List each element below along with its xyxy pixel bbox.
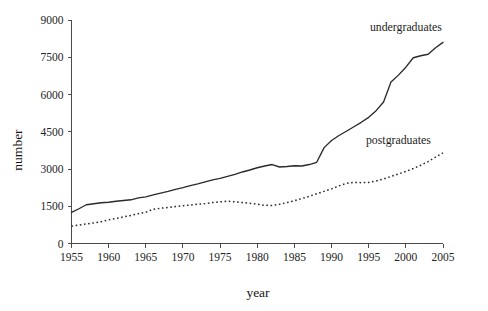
y-tick-label: 0 [58, 238, 64, 250]
y-tick-label: 4500 [41, 126, 64, 138]
series-label-postgraduates: postgraduates [366, 133, 431, 147]
x-tick-label: 1975 [209, 251, 232, 263]
x-axis-ticks: 1955196019651970197519801985199019952000… [60, 244, 455, 263]
x-tick-label: 1955 [60, 251, 83, 263]
x-tick-label: 1995 [357, 251, 380, 263]
x-tick-label: 1985 [283, 251, 306, 263]
line-chart: 0150030004500600075009000 19551960196519… [0, 0, 488, 311]
x-axis: 1955196019651970197519801985199019952000… [60, 244, 455, 263]
series-label-undergraduates: undergraduates [370, 20, 442, 34]
y-tick-label: 6000 [41, 89, 64, 101]
y-axis: 0150030004500600075009000 [41, 14, 72, 250]
x-tick-label: 2000 [394, 251, 417, 263]
y-tick-label: 1500 [41, 200, 64, 212]
y-tick-label: 9000 [41, 14, 64, 26]
series-annotations: undergraduatespostgraduates [366, 20, 442, 147]
y-axis-title: number [10, 129, 25, 171]
x-tick-label: 1965 [134, 251, 157, 263]
y-tick-label: 7500 [41, 51, 64, 63]
x-tick-label: 1960 [97, 251, 120, 263]
x-tick-label: 2005 [432, 251, 455, 263]
series-line-undergraduates [72, 42, 444, 212]
x-tick-label: 1980 [246, 251, 269, 263]
chart-container: 0150030004500600075009000 19551960196519… [0, 0, 488, 311]
x-tick-label: 1970 [171, 251, 194, 263]
series-line-postgraduates [72, 153, 444, 226]
y-axis-ticks: 0150030004500600075009000 [41, 14, 72, 250]
y-tick-label: 3000 [41, 163, 64, 175]
x-tick-label: 1990 [320, 251, 343, 263]
x-axis-title: year [246, 285, 270, 300]
